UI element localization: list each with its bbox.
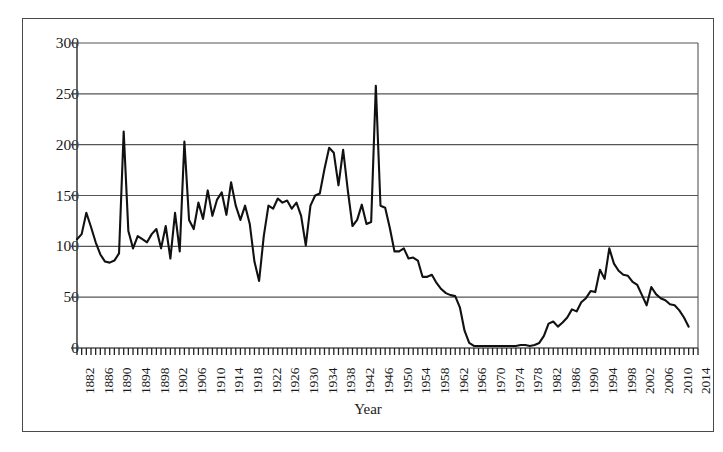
plot-area	[23, 19, 715, 433]
gridlines	[77, 43, 698, 348]
data-series-line	[77, 86, 689, 346]
x-axis-ticks	[77, 348, 698, 355]
chart-figure-frame: 050100150200250300 188218861890189418981…	[22, 18, 714, 432]
x-axis-title: Year	[23, 401, 713, 418]
chart-canvas: 050100150200250300 188218861890189418981…	[23, 19, 713, 431]
